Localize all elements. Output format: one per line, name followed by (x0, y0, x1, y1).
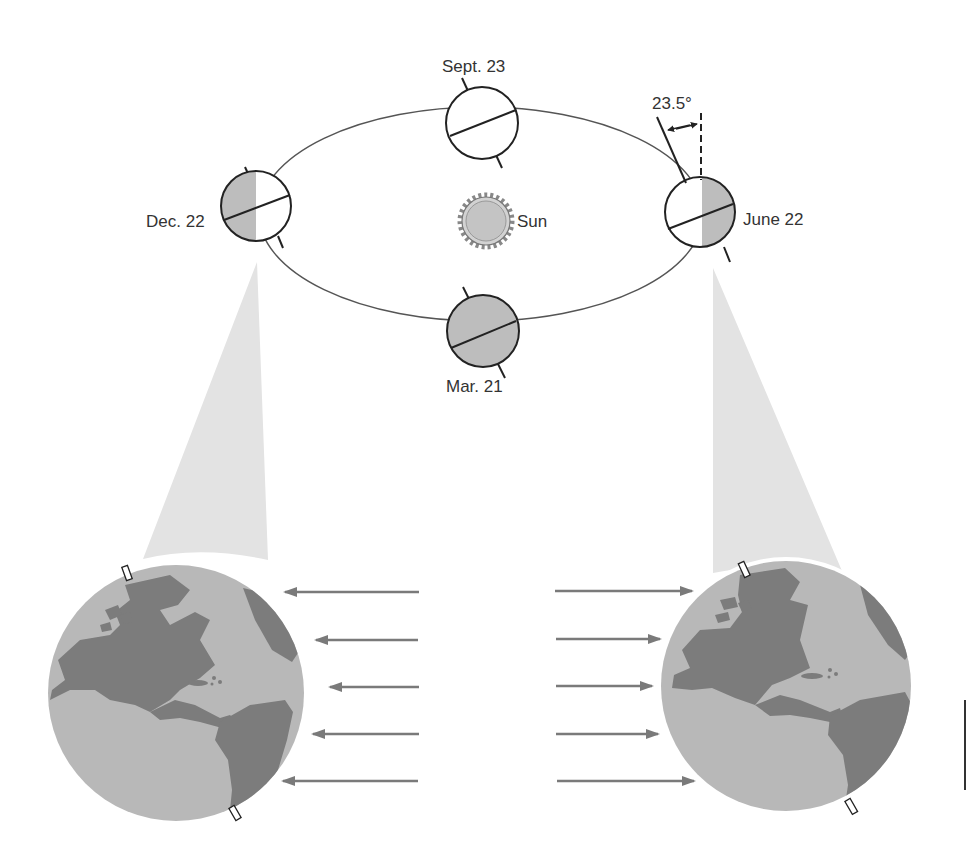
light-cone-dec (143, 262, 268, 560)
globe-june (657, 557, 915, 815)
earth-dec (220, 167, 291, 248)
label-sun: Sun (517, 213, 547, 230)
earth-june (665, 176, 742, 262)
label-sept: Sept. 23 (442, 58, 505, 75)
tilt-annotation (657, 113, 701, 183)
seasons-diagram: Sept. 23 Dec. 22 June 22 Mar. 21 Sun 23.… (0, 0, 967, 866)
label-dec: Dec. 22 (146, 213, 205, 230)
earth-mar (447, 287, 519, 378)
globe-dec (44, 561, 308, 825)
label-mar: Mar. 21 (446, 378, 503, 395)
label-tilt: 23.5° (652, 95, 692, 112)
sun-icon (460, 195, 512, 247)
earth-sept (446, 78, 518, 168)
light-cone-june (713, 268, 845, 578)
label-june: June 22 (743, 211, 804, 228)
